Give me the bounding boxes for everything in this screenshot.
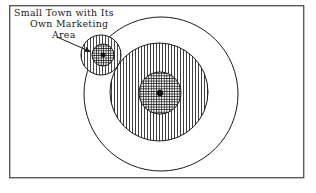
marketing-area-diagram: Small Town with Its Own Marketing Area (0, 0, 316, 193)
caption-line-1: Small Town with Its (14, 7, 114, 18)
caption-line-2: Own Marketing (30, 18, 108, 29)
city-center-dot (157, 90, 163, 96)
caption-line-3: Area (51, 29, 76, 40)
small-town-center-dot (101, 53, 106, 58)
